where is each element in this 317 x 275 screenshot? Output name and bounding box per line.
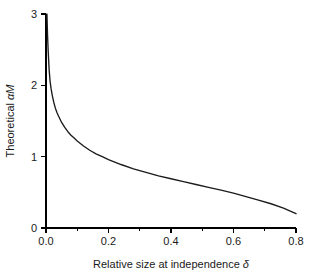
x-tick-label: 0.6 bbox=[226, 235, 241, 247]
x-tick-label: 0.2 bbox=[101, 235, 116, 247]
theoretical-curve bbox=[47, 14, 296, 214]
x-tick-label: 0.4 bbox=[163, 235, 178, 247]
y-tick-label: 1 bbox=[31, 151, 37, 163]
x-tick-label: 0.8 bbox=[288, 235, 303, 247]
y-axis-title: Theoretical αM bbox=[4, 84, 16, 158]
x-axis-ticks bbox=[46, 228, 296, 233]
y-axis-tick-labels: 0123 bbox=[31, 8, 37, 234]
y-tick-label: 3 bbox=[31, 8, 37, 20]
chart-figure: 0.00.20.40.60.8 0123 Relative size at in… bbox=[0, 0, 317, 275]
theoretical-alpha-m-line-chart: 0.00.20.40.60.8 0123 Relative size at in… bbox=[0, 0, 317, 275]
x-tick-label: 0.0 bbox=[38, 235, 53, 247]
plot-axes bbox=[46, 14, 296, 228]
data-series-group bbox=[47, 14, 296, 214]
y-axis-ticks bbox=[41, 14, 46, 228]
x-axis-tick-labels: 0.00.20.40.60.8 bbox=[38, 235, 303, 247]
y-tick-label: 0 bbox=[31, 222, 37, 234]
y-tick-label: 2 bbox=[31, 79, 37, 91]
x-axis-title: Relative size at independence δ bbox=[93, 258, 250, 270]
